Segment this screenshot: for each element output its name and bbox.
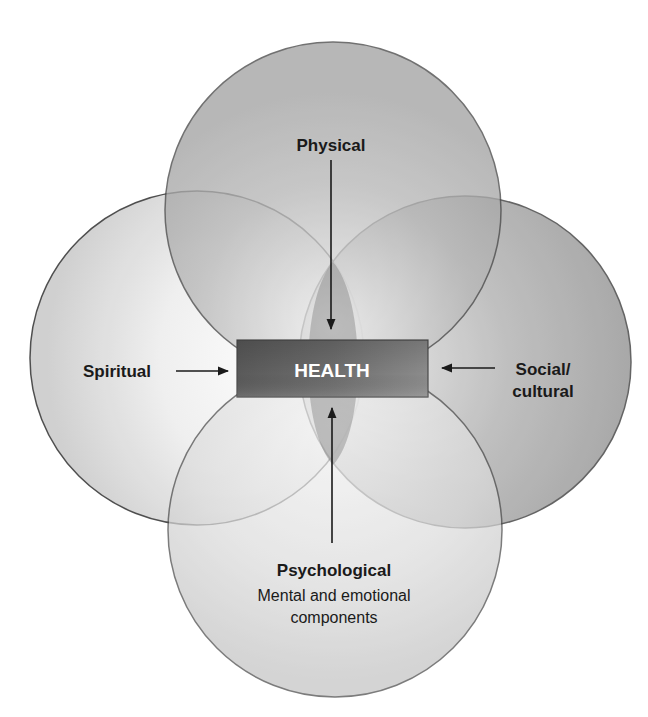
spiritual-label: Spiritual xyxy=(83,362,151,381)
physical-label: Physical xyxy=(297,136,366,155)
social-label-line2: cultural xyxy=(512,382,573,401)
social-label-line1: Social/ xyxy=(516,360,571,379)
health-label: HEALTH xyxy=(294,360,370,381)
psychological-sublabel-line1: Mental and emotional xyxy=(258,587,411,604)
psychological-label: Psychological xyxy=(277,561,391,580)
health-dimensions-diagram: HEALTH Physical Spiritual Social/ cultur… xyxy=(0,0,648,717)
psychological-sublabel-line2: components xyxy=(290,609,377,626)
health-box: HEALTH xyxy=(237,340,428,397)
